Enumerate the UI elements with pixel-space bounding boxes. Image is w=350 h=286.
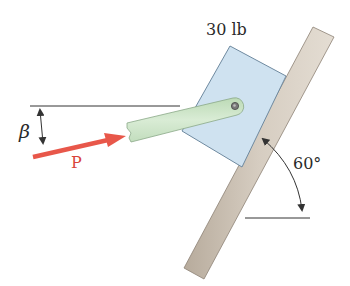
beta-label: β — [19, 122, 30, 141]
weight-label: 30 lb — [206, 22, 247, 38]
diagram-canvas: 30 lb β P 60° — [0, 0, 350, 286]
force-label: P — [71, 155, 82, 171]
beta-dimension-arrow — [40, 110, 43, 143]
diagram-svg — [0, 0, 350, 286]
incline-angle-label: 60° — [293, 156, 321, 172]
force-arrow-head — [104, 133, 126, 147]
pin-highlight — [233, 104, 236, 107]
